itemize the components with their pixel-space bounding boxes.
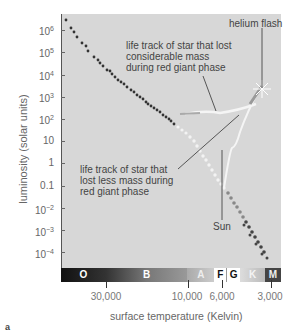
y-axis-label: luminosity (solar units) <box>17 64 29 234</box>
main-sequence-cool-dots <box>226 191 245 219</box>
xtick-mark <box>222 280 223 288</box>
ytick-mark <box>61 186 65 187</box>
class-g: G <box>226 268 240 282</box>
ytick-mark <box>61 75 65 76</box>
considerable-mass-label: life track of star that lost considerabl… <box>126 40 232 73</box>
spectral-class-band: O B A F G K M <box>61 268 281 282</box>
ytick-mark <box>61 30 65 31</box>
less-mass-label: life track of star that lost less mass d… <box>80 164 173 197</box>
xtick-6000: 6,000 <box>209 291 234 302</box>
ytick-mark <box>61 163 65 164</box>
panel-label: a <box>5 322 10 332</box>
class-b: B <box>106 268 188 282</box>
ytick-1e5: 105 <box>14 46 54 59</box>
xtick-mark <box>188 280 189 288</box>
y-axis-line <box>61 14 62 282</box>
xtick-10000: 10,000 <box>172 291 203 302</box>
xtick-3000: 3,000 <box>257 291 282 302</box>
ytick-mark <box>61 52 65 53</box>
main-sequence-red-dwarf-dots <box>243 220 269 259</box>
ytick-mark <box>61 97 65 98</box>
class-k: K <box>240 268 265 282</box>
class-m: M <box>265 268 281 282</box>
xtick-mark <box>106 280 107 288</box>
ytick-mark <box>61 252 65 253</box>
helium-flash-label: helium flash <box>229 18 282 29</box>
ytick-mark <box>61 141 65 142</box>
ytick-mark <box>61 230 65 231</box>
ytick-mark <box>61 119 65 120</box>
main-sequence-light-dots <box>176 125 225 189</box>
ytick-mark <box>61 208 65 209</box>
ytick-1e6: 106 <box>14 24 54 37</box>
x-axis-label: surface temperature (Kelvin) <box>110 310 242 322</box>
xtick-30000: 30,000 <box>91 291 122 302</box>
class-o: O <box>61 268 106 282</box>
xtick-mark <box>271 280 272 288</box>
sun-label: Sun <box>213 221 231 232</box>
class-a: A <box>187 268 214 282</box>
class-f: F <box>214 268 226 282</box>
ytick-1e-4: 10−4 <box>14 247 54 260</box>
